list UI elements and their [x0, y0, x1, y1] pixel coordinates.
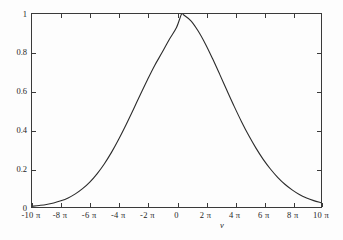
- x-tick-mark-top: [265, 14, 266, 18]
- x-tick-label: -2 π: [140, 210, 155, 220]
- x-tick-label: -6 π: [82, 210, 97, 220]
- x-tick-label: -8 π: [53, 210, 68, 220]
- x-tick-label: 2 π: [200, 210, 212, 220]
- x-tick-mark-top: [236, 14, 237, 18]
- y-tick-mark: [32, 131, 36, 132]
- y-tick-mark: [32, 92, 36, 93]
- x-tick-mark: [90, 203, 91, 207]
- x-tick-label: 8 π: [287, 210, 299, 220]
- x-tick-label: 6 π: [258, 210, 270, 220]
- x-tick-mark: [294, 203, 295, 207]
- figure-canvas: 0 0.2 0.4 0.6 0.8 1: [0, 0, 343, 240]
- x-tick-mark-top: [119, 14, 120, 18]
- y-tick-mark-right: [317, 92, 321, 93]
- x-tick-mark: [61, 203, 62, 207]
- x-tick-mark-top: [207, 14, 208, 18]
- x-tick-mark: [32, 203, 33, 207]
- x-tick-label: 10 π: [313, 210, 329, 220]
- y-tick-label: 0.6: [16, 86, 27, 96]
- x-tick-mark-top: [148, 14, 149, 18]
- x-tick-mark: [236, 203, 237, 207]
- x-tick-mark-top: [61, 14, 62, 18]
- x-tick-mark: [178, 203, 179, 207]
- x-tick-mark-top: [90, 14, 91, 18]
- y-tick-label: 0.8: [16, 47, 27, 57]
- y-tick-mark: [32, 170, 36, 171]
- x-tick-mark-top: [294, 14, 295, 18]
- y-tick-label: 1: [23, 9, 27, 19]
- x-tick-mark: [265, 203, 266, 207]
- y-tick-label: 0.4: [16, 125, 27, 135]
- plot-area: [31, 13, 322, 208]
- curve-line: [32, 14, 321, 207]
- x-tick-label: -10 π: [21, 210, 40, 220]
- x-tick-mark: [148, 203, 149, 207]
- x-tick-label: 4 π: [229, 210, 241, 220]
- y-tick-mark: [32, 53, 36, 54]
- y-tick-mark-right: [317, 53, 321, 54]
- x-tick-mark: [207, 203, 208, 207]
- y-tick-mark-right: [317, 131, 321, 132]
- x-tick-mark-top: [178, 14, 179, 18]
- y-tick-label: 0.2: [16, 164, 27, 174]
- x-tick-label: -4 π: [111, 210, 126, 220]
- x-tick-label: 0: [174, 210, 179, 220]
- y-tick-mark-right: [317, 170, 321, 171]
- x-tick-mark: [119, 203, 120, 207]
- x-axis-title: ν: [220, 220, 224, 230]
- x-tick-mark: [322, 203, 323, 207]
